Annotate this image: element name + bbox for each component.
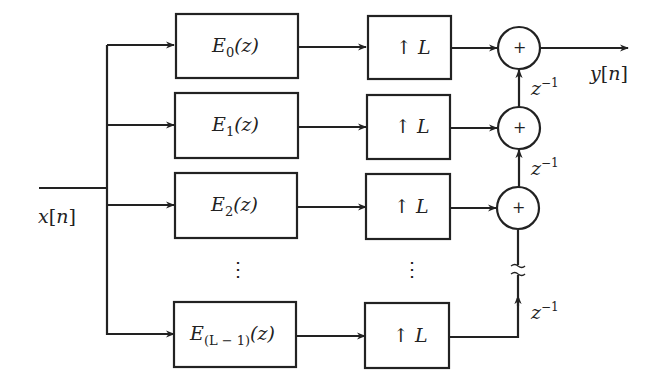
upsampler-label-3: ↑ L: [393, 324, 428, 346]
ellipsis-filters: ⋮: [228, 257, 248, 281]
delay-label-0: z−1: [531, 76, 559, 99]
upsampler-label-0: ↑ L: [396, 36, 431, 58]
adder-plus-0: +: [513, 38, 526, 57]
filter-label-3: E(L − 1)(z): [190, 322, 275, 348]
filter-label-1: E1(z): [212, 113, 259, 139]
output-label: y[n]: [590, 62, 628, 84]
delay-label-2: z−1: [531, 300, 559, 323]
up-arrow-icon: ↑: [396, 36, 412, 58]
filter-label-2: E2(z): [211, 193, 258, 219]
up-arrow-icon: ↑: [395, 115, 411, 137]
up-arrow-icon: ↑: [393, 324, 409, 346]
input-label: x[n]: [38, 205, 76, 227]
ellipsis-upsamplers: ⋮: [402, 257, 422, 281]
filter-label-0: E0(z): [212, 34, 259, 60]
upsampler-label-2: ↑ L: [394, 195, 429, 217]
break-icon: [511, 265, 525, 276]
upsampler-label-1: ↑ L: [395, 115, 430, 137]
block-diagram: [0, 0, 655, 388]
adder-plus-2: +: [512, 198, 525, 217]
bottom-path: [449, 298, 518, 337]
adder-plus-1: +: [513, 118, 526, 137]
up-arrow-icon: ↑: [394, 195, 410, 217]
delay-label-1: z−1: [531, 156, 559, 179]
